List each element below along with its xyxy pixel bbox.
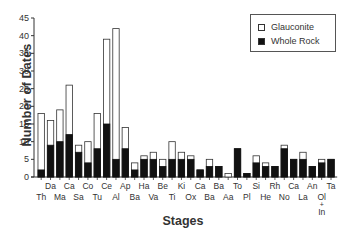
whole-rock-bar [141, 159, 147, 177]
whole-rock-bar [328, 159, 334, 177]
x-tick-label: Ki [178, 181, 186, 191]
whole-rock-bar [318, 163, 324, 177]
glauconite-swatch-icon [258, 24, 265, 31]
whole-rock-bar [113, 159, 119, 177]
x-tick-label: Ca [64, 181, 75, 191]
x-tick-label: No [279, 192, 290, 202]
legend-label: Whole Rock [271, 36, 320, 46]
x-tick-label: Ti [169, 192, 176, 202]
x-tick-label: In [318, 207, 325, 217]
x-tick-label: Th [36, 192, 46, 202]
x-tick-label: Ap [120, 181, 131, 191]
whole-rock-bar [66, 135, 72, 177]
whole-rock-bar [103, 124, 109, 177]
whole-rock-bar [160, 166, 166, 177]
whole-rock-bar [188, 159, 194, 177]
x-axis-title: Stages [148, 214, 218, 228]
whole-rock-bar [206, 166, 212, 177]
x-tick-label: Ha [139, 181, 150, 191]
x-tick-label: Pl [243, 192, 251, 202]
whole-rock-bar [234, 149, 240, 177]
whole-rock-bar [94, 149, 100, 177]
x-tick-label: To [233, 181, 242, 191]
glauconite-bar [38, 113, 44, 177]
glauconite-bar [113, 29, 119, 177]
x-tick-label: Ba [129, 192, 140, 202]
stacked-bar-chart: 051015202530354045ThDaMaCaSaCoTuCeAlApBa… [0, 0, 348, 239]
x-tick-label: Tu [92, 192, 102, 202]
whole-rock-bar [281, 149, 287, 177]
y-tick-label: 0 [24, 172, 29, 182]
legend-label: Glauconite [271, 22, 314, 32]
whole-rock-bar [197, 170, 203, 177]
y-tick-label: 45 [19, 13, 29, 23]
whole-rock-bar [216, 166, 222, 177]
x-tick-label: Al [112, 192, 120, 202]
x-tick-label: Be [158, 181, 169, 191]
x-tick-label: Ba [214, 181, 225, 191]
whole-rock-bar [253, 163, 259, 177]
whole-rock-bar [122, 149, 128, 177]
whole-rock-bar [244, 173, 250, 177]
x-tick-label: Ox [185, 192, 197, 202]
whole-rock-bar [300, 159, 306, 177]
whole-rock-swatch-icon [258, 38, 265, 45]
x-tick-label: Sa [73, 192, 84, 202]
x-tick-label: He [260, 192, 271, 202]
whole-rock-bar [178, 159, 184, 177]
x-tick-label: Ce [101, 181, 112, 191]
x-tick-label: Ma [54, 192, 66, 202]
whole-rock-bar [38, 170, 44, 177]
whole-rock-bar [262, 166, 268, 177]
x-tick-label: Ba [204, 192, 215, 202]
whole-rock-bar [75, 152, 81, 177]
x-tick-label: Ca [195, 181, 206, 191]
whole-rock-bar [309, 166, 315, 177]
whole-rock-bar [57, 142, 63, 177]
legend: Glauconite Whole Rock [250, 14, 336, 52]
x-tick-label: Rh [269, 181, 280, 191]
x-tick-label: Ca [288, 181, 299, 191]
y-axis-title: Number of Dates [20, 30, 34, 160]
whole-rock-bar [131, 170, 137, 177]
x-tick-label: Da [45, 181, 56, 191]
legend-item-glauconite: Glauconite [258, 22, 314, 32]
x-tick-label: Aa [223, 192, 234, 202]
glauconite-bar [225, 173, 231, 177]
x-tick-label: Co [82, 181, 93, 191]
x-tick-label: Va [148, 192, 158, 202]
whole-rock-bar [290, 159, 296, 177]
whole-rock-bar [272, 166, 278, 177]
legend-item-whole-rock: Whole Rock [258, 36, 320, 46]
x-tick-label: Ta [327, 181, 336, 191]
whole-rock-bar [169, 159, 175, 177]
x-tick-label: An [307, 181, 318, 191]
x-tick-label: La [298, 192, 308, 202]
whole-rock-bar [150, 159, 156, 177]
x-tick-label: Si [252, 181, 260, 191]
whole-rock-bar [85, 163, 91, 177]
whole-rock-bar [47, 145, 53, 177]
